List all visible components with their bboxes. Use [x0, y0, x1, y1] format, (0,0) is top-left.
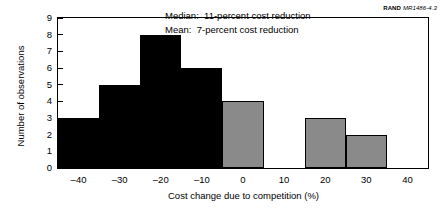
annotation-median: Median: 11-percent cost reduction	[165, 9, 311, 23]
bar	[346, 135, 387, 168]
plot-area	[57, 17, 429, 169]
annotation-block: Median: 11-percent cost reduction Mean: …	[165, 9, 311, 37]
figure-histogram: RANDMR1486-4.3 Number of observations Co…	[0, 0, 443, 218]
y-axis-title: Number of observations	[14, 16, 28, 176]
x-axis-tick-label: 20	[307, 175, 343, 185]
y-axis-tick	[58, 84, 63, 85]
y-axis-tick	[58, 68, 63, 69]
y-axis-tick-label: 5	[30, 80, 52, 90]
source-brand: RAND	[383, 5, 401, 11]
y-axis-tick-label: 6	[30, 63, 52, 73]
y-axis-tick-label: 2	[30, 130, 52, 140]
bar	[99, 85, 140, 168]
x-axis-tick-label: 40	[389, 175, 425, 185]
bar	[222, 101, 263, 168]
x-axis-tick-label: –30	[102, 175, 138, 185]
bar	[181, 68, 222, 168]
x-axis-tick-label: –20	[143, 175, 179, 185]
y-axis-tick-label: 8	[30, 30, 52, 40]
source-tag: RANDMR1486-4.3	[383, 5, 437, 11]
source-code: MR1486-4.3	[403, 5, 437, 11]
y-axis-tick-label: 9	[30, 13, 52, 23]
x-axis-tick-label: –10	[184, 175, 220, 185]
bar	[305, 118, 346, 168]
plot-inner	[58, 18, 428, 168]
bar	[58, 118, 99, 168]
y-axis-tick-label: 0	[30, 163, 52, 173]
y-axis-tick	[58, 18, 63, 19]
y-axis-tick-label: 1	[30, 146, 52, 156]
x-axis-tick-label: 30	[348, 175, 384, 185]
x-axis-tick-label: –40	[61, 175, 97, 185]
x-axis-title: Cost change due to competition (%)	[57, 190, 430, 202]
x-axis-tick-label: 10	[266, 175, 302, 185]
y-axis-tick-label: 7	[30, 46, 52, 56]
annotation-mean: Mean: 7-percent cost reduction	[165, 23, 311, 37]
y-axis-tick-label: 4	[30, 96, 52, 106]
y-axis-tick	[58, 51, 63, 52]
x-axis-tick-label: 0	[225, 175, 261, 185]
y-axis-tick-label: 3	[30, 113, 52, 123]
bar	[140, 35, 181, 168]
y-axis-tick	[58, 101, 63, 102]
y-axis-tick	[58, 34, 63, 35]
